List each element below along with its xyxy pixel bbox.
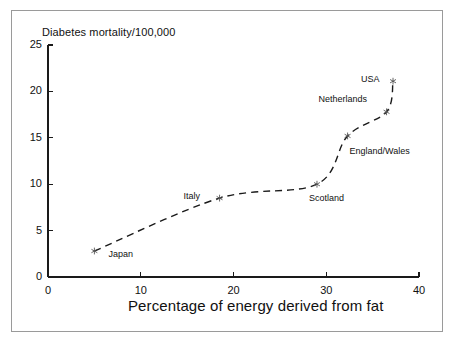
x-tick-label: 20 — [220, 284, 248, 296]
point-label: Scotland — [309, 193, 344, 203]
y-tick-label: 25 — [14, 38, 42, 50]
chart-figure: Diabetes mortality/100,000 Percentage of… — [0, 0, 454, 342]
point-label: England/Wales — [350, 146, 410, 156]
x-axis-title: Percentage of energy derived from fat — [128, 297, 384, 314]
point-label: Netherlands — [319, 94, 368, 104]
y-axis-title: Diabetes mortality/100,000 — [42, 26, 175, 38]
data-point-japan — [91, 248, 97, 255]
data-point-markers — [91, 78, 396, 255]
trend-line — [94, 81, 393, 251]
point-label: Japan — [108, 249, 133, 259]
x-tick-label: 0 — [34, 284, 62, 296]
point-label: Italy — [184, 191, 201, 201]
x-tick-label: 10 — [127, 284, 155, 296]
point-label: USA — [361, 74, 380, 84]
trend-curve — [94, 81, 393, 251]
x-tick-label: 40 — [405, 284, 433, 296]
data-point-scotland — [314, 181, 320, 188]
y-tick-label: 5 — [14, 224, 42, 236]
y-tick-label: 20 — [14, 84, 42, 96]
y-tick-label: 10 — [14, 177, 42, 189]
y-tick-label: 15 — [14, 131, 42, 143]
y-tick-label: 0 — [14, 270, 42, 282]
x-tick-label: 30 — [312, 284, 340, 296]
data-point-usa — [390, 78, 396, 85]
